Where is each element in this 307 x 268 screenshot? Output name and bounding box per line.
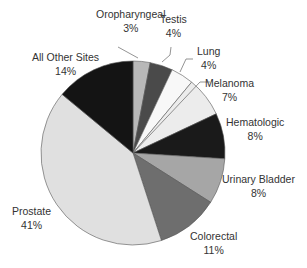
slice-label-urinary-bladder: Urinary Bladder8%: [222, 172, 295, 200]
slice-label-name: All Other Sites: [32, 51, 99, 63]
slice-label-percent: 4%: [197, 58, 220, 72]
slice-label-prostate: Prostate41%: [12, 204, 51, 232]
leader-line: [162, 47, 171, 62]
leader-line: [118, 47, 138, 58]
slice-label-name: Melanoma: [205, 77, 254, 89]
slice-label-oropharyngeal: Oropharyngeal3%: [96, 7, 165, 35]
slice-label-hematologic: Hematologic8%: [226, 115, 284, 143]
slice-label-name: Colorectal: [190, 230, 237, 242]
slice-label-name: Oropharyngeal: [96, 8, 165, 20]
slice-label-name: Hematologic: [226, 116, 284, 128]
slice-label-percent: 3%: [96, 21, 165, 35]
slice-label-name: Lung: [197, 45, 220, 57]
slice-label-percent: 8%: [226, 129, 284, 143]
slice-label-percent: 4%: [160, 26, 187, 40]
slice-label-percent: 11%: [190, 243, 237, 257]
slice-label-percent: 7%: [205, 90, 254, 104]
slice-label-melanoma: Melanoma7%: [205, 76, 254, 104]
slice-label-percent: 8%: [222, 186, 295, 200]
slice-label-name: Urinary Bladder: [222, 173, 295, 185]
slice-label-percent: 14%: [32, 64, 99, 78]
leader-line: [180, 59, 193, 72]
pie-slices: [41, 61, 225, 245]
slice-label-name: Testis: [160, 13, 187, 25]
slice-label-colorectal: Colorectal11%: [190, 229, 237, 257]
slice-label-name: Prostate: [12, 205, 51, 217]
slice-label-testis: Testis4%: [160, 12, 187, 40]
slice-label-lung: Lung4%: [197, 44, 220, 72]
slice-label-percent: 41%: [12, 218, 51, 232]
slice-label-all-other-sites: All Other Sites14%: [32, 50, 99, 78]
